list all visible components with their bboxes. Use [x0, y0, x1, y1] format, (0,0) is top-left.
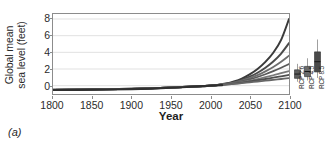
- plot-area: [52, 13, 290, 95]
- y-tick-mark-6: [50, 35, 53, 36]
- rcp-boxplot-labels: RCP 2.6RCP 4.5RCP 8.5: [292, 66, 322, 100]
- panel-letter: (a): [8, 126, 21, 138]
- y-tick-label-6: 6: [36, 30, 50, 41]
- y-tick-label-4: 4: [36, 47, 50, 58]
- y-tick-label-8: 8: [36, 13, 50, 24]
- y-tick-mark-4: [50, 52, 53, 53]
- sea-level-line-chart: [53, 14, 289, 94]
- y-axis-title-line1: Global mean: [3, 21, 15, 88]
- boxplot-label-rcp-4.5: RCP 4.5: [308, 66, 315, 89]
- y-axis-title: Global mean sea level (feet): [0, 0, 30, 110]
- y-axis-ticks: 02468: [32, 13, 50, 95]
- x-axis-title: Year: [52, 110, 290, 122]
- figure-panel-a: Global mean sea level (feet) 02468 18001…: [0, 0, 328, 145]
- y-tick-mark-2: [50, 69, 53, 70]
- boxplot-label-rcp-2.6: RCP 2.6: [298, 66, 305, 89]
- y-tick-mark-0: [50, 86, 53, 87]
- y-tick-label-2: 2: [36, 64, 50, 75]
- boxplot-label-rcp-8.5: RCP 8.5: [318, 66, 325, 89]
- y-tick-mark-8: [50, 18, 53, 19]
- series-line-1: [53, 43, 289, 90]
- y-tick-label-0: 0: [36, 81, 50, 92]
- y-axis-title-line2: sea level (feet): [15, 21, 27, 88]
